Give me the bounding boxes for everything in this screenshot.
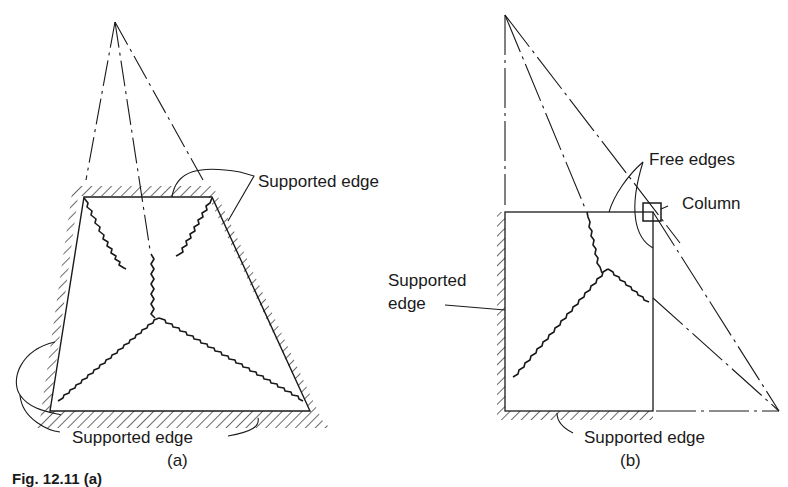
leader-supported-left (445, 305, 505, 310)
yield-line-b-top (587, 212, 602, 273)
panel-b-label: (b) (620, 451, 641, 471)
bottom-support-hatch (37, 411, 330, 428)
label-a-supported-edge-top: Supported edge (258, 172, 379, 192)
yield-line-top-right (176, 198, 212, 256)
bottom-support-hatch-b (497, 411, 653, 420)
apex-b-diag (505, 15, 680, 243)
corner-b-diag-left (653, 298, 779, 411)
leader-free-edge-top (609, 162, 643, 212)
left-support-hatch (40, 186, 78, 420)
apex-line-right (115, 22, 203, 180)
square-slab (505, 212, 653, 411)
yield-line-center (151, 254, 155, 318)
apex-line-left (86, 22, 115, 180)
yield-line-b-right (608, 269, 649, 302)
right-support-hatch (208, 186, 322, 420)
left-support-hatch-b (497, 212, 505, 418)
label-b-supported-edge-bottom: Supported edge (584, 428, 705, 448)
label-b-supported-line2: edge (388, 294, 426, 314)
figure-caption: Fig. 12.11 (a) (12, 470, 102, 487)
apex-b-mid (505, 15, 585, 208)
top-support-hatch (73, 186, 213, 196)
yield-line-b-left (513, 269, 608, 377)
label-a-supported-edge-bottom: Supported edge (72, 428, 193, 448)
panel-a-slab (16, 22, 330, 436)
yield-line-bottom-left (58, 318, 159, 401)
panel-b-slab (445, 15, 779, 433)
yield-line-top-left (84, 198, 126, 269)
panel-a-label: (a) (167, 451, 188, 471)
leader-column (661, 206, 668, 209)
label-b-column: Column (682, 194, 741, 214)
label-b-supported-line1: Supported (388, 271, 466, 291)
apex-line-center (115, 22, 150, 250)
label-b-free-edges: Free edges (649, 150, 735, 170)
corner-b-diag-up (653, 212, 779, 411)
trapezoid-slab (50, 197, 310, 411)
yield-line-bottom-right (159, 318, 303, 401)
